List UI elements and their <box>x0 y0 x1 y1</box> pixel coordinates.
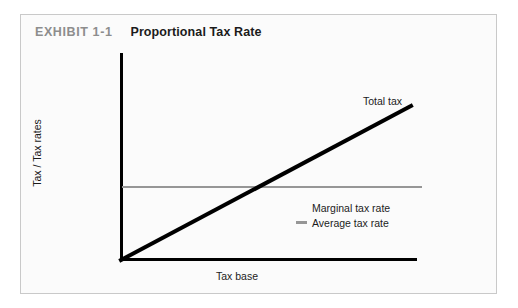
legend-item-marginal-tax-rate: Marginal tax rate <box>296 200 390 215</box>
x-axis-label: Tax base <box>216 270 258 282</box>
legend-swatch-marginal-icon <box>296 206 307 209</box>
chart-plot-area: Tax / Tax rates Tax base Total tax Margi… <box>21 15 498 295</box>
exhibit-panel: EXHIBIT 1-1 Proportional Tax Rate Tax / … <box>20 14 497 294</box>
total-tax-line <box>120 105 412 261</box>
legend-item-average-tax-rate: Average tax rate <box>296 215 390 230</box>
legend-swatch-average-icon <box>296 221 307 224</box>
legend-label-average: Average tax rate <box>312 217 389 229</box>
y-axis-label: Tax / Tax rates <box>31 103 43 203</box>
chart-legend: Marginal tax rate Average tax rate <box>296 200 390 230</box>
total-tax-annotation: Total tax <box>363 95 402 107</box>
legend-label-marginal: Marginal tax rate <box>312 202 390 214</box>
total-tax-line-stroke <box>121 106 411 260</box>
